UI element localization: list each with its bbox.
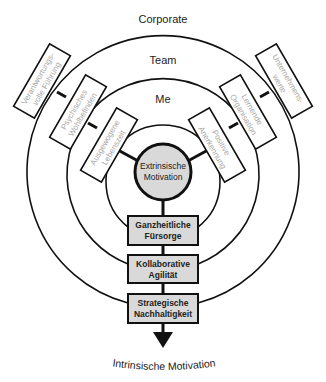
outcome-label-text: Intrinsische Motivation: [112, 356, 216, 372]
connector-left-inner-middle: [88, 123, 97, 128]
box-ausgewogene-lebenszeit: Ausgewogene Lebenszeit: [81, 108, 138, 182]
ring-label-team: Team: [150, 54, 177, 66]
box-label-line2: Nachhaltigkeit: [134, 309, 192, 319]
arrow-down-icon: [153, 332, 173, 348]
connector-left-middle-outer: [57, 92, 66, 97]
ring-label-corporate: Corporate: [139, 13, 188, 25]
box-ganzheitliche-fuersorge: Ganzheitliche Fürsorge: [128, 216, 198, 245]
connector-right-inner-middle: [229, 123, 238, 128]
box-label-line1: Strategische: [137, 298, 188, 308]
outcome-label: Intrinsische Motivation: [112, 356, 216, 372]
ring-label-me: Me: [155, 93, 170, 105]
center-label-line2: Motivation: [144, 172, 183, 182]
box-label-line1: Kollaborative: [136, 259, 190, 269]
box-label-line1: Ganzheitliche: [135, 220, 191, 230]
box-strategische-nachhaltigkeit: Strategische Nachhaltigkeit: [128, 294, 198, 323]
box-positive-anerkennung: Positive Anerkennung: [189, 108, 246, 182]
center-label-line1: Extrinsische: [140, 161, 186, 171]
box-label-line2: Fürsorge: [145, 231, 182, 241]
motivation-diagram: Corporate Team Me Extrinsische Motivatio…: [0, 0, 326, 382]
connector-right-middle-outer: [260, 92, 269, 97]
box-label-line2: Agilität: [149, 270, 178, 280]
box-kollaborative-agilitaet: Kollaborative Agilität: [128, 255, 198, 283]
